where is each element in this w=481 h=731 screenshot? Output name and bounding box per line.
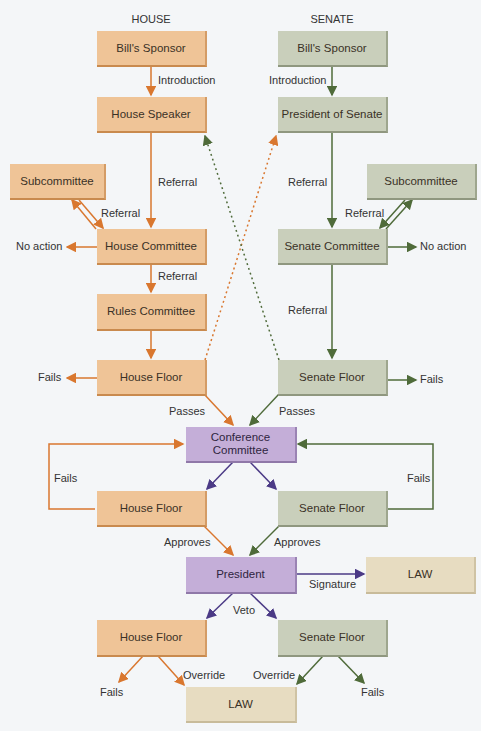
- senate-no-action-label: No action: [420, 240, 466, 252]
- senate-referral-label-2: Referral: [288, 304, 327, 316]
- senate-subcommittee-referral-label: Referral: [345, 207, 384, 219]
- house-referral-label-1: Referral: [158, 176, 197, 188]
- house-approves-label: Approves: [164, 536, 210, 548]
- house-override-label: Override: [183, 669, 225, 681]
- president-of-senate-box: President of Senate: [278, 97, 388, 133]
- senate-fails-label: Fails: [420, 373, 443, 385]
- senate-committee-box: Senate Committee: [278, 229, 388, 265]
- law-signature-box: LAW: [366, 557, 476, 594]
- senate-approves-label: Approves: [274, 536, 320, 548]
- senate-override-label: Override: [253, 669, 295, 681]
- veto-house-fails-label: Fails: [100, 686, 123, 698]
- senate-floor-box: Senate Floor: [278, 360, 388, 396]
- veto-senate-fails-label: Fails: [361, 686, 384, 698]
- senate-introduction-label: Introduction: [269, 74, 326, 86]
- senate-bills-sponsor-box: Bill's Sponsor: [278, 31, 388, 67]
- senate-passes-label: Passes: [279, 405, 315, 417]
- conference-senate-fails-label: Fails: [407, 472, 430, 484]
- senate-subcommittee-box: Subcommittee: [367, 164, 477, 200]
- house-subcommittee-referral-label: Referral: [101, 207, 140, 219]
- house-subcommittee-box: Subcommittee: [10, 164, 106, 200]
- senate-referral-label-1: Referral: [288, 176, 327, 188]
- president-box: President: [186, 557, 297, 594]
- arrows-layer: [0, 0, 481, 731]
- house-column-title: HOUSE: [96, 13, 206, 25]
- house-introduction-label: Introduction: [158, 74, 215, 86]
- law-override-box: LAW: [186, 687, 297, 723]
- signature-label: Signature: [309, 578, 356, 590]
- senate-column-title: SENATE: [277, 13, 387, 25]
- conference-committee-box: Conference Committee: [186, 427, 297, 463]
- house-speaker-box: House Speaker: [97, 97, 207, 133]
- house-committee-box: House Committee: [97, 229, 207, 265]
- house-passes-label: Passes: [169, 405, 205, 417]
- house-no-action-label: No action: [16, 240, 62, 252]
- house-referral-label-2: Referral: [158, 270, 197, 282]
- veto-label: Veto: [233, 604, 255, 616]
- conference-senate-floor-box: Senate Floor: [278, 491, 388, 527]
- conference-house-floor-box: House Floor: [97, 491, 207, 527]
- house-fails-label: Fails: [38, 371, 61, 383]
- veto-senate-floor-box: Senate Floor: [278, 620, 388, 657]
- rules-committee-box: Rules Committee: [97, 294, 207, 331]
- house-bills-sponsor-box: Bill's Sponsor: [97, 31, 207, 67]
- veto-house-floor-box: House Floor: [97, 620, 207, 657]
- house-floor-box: House Floor: [97, 360, 207, 396]
- conference-house-fails-label: Fails: [54, 472, 77, 484]
